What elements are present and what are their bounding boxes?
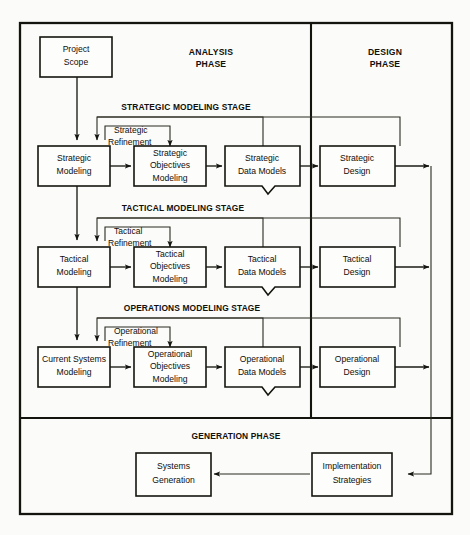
svg-text:ANALYSIS: ANALYSIS (189, 47, 233, 57)
node-strategic-objectives-modeling[interactable]: Strategic Objectives Modeling (134, 146, 206, 186)
svg-text:Design: Design (344, 367, 371, 377)
svg-text:Data Models: Data Models (238, 367, 286, 377)
node-tactical-modeling[interactable]: Tactical Modeling (38, 247, 110, 287)
svg-text:Data Models: Data Models (238, 166, 286, 176)
svg-text:Tactical: Tactical (156, 249, 185, 259)
generation-phase-label: GENERATION PHASE (192, 431, 281, 441)
svg-text:Operational: Operational (114, 326, 158, 336)
svg-text:Project: Project (63, 44, 90, 54)
svg-text:Tactical: Tactical (343, 254, 372, 264)
node-implementation-strategies[interactable]: Implementation Strategies (312, 453, 392, 496)
process-flow-diagram: ANALYSIS PHASE DESIGN PHASE STRATEGIC MO… (0, 0, 470, 535)
svg-text:DESIGN: DESIGN (368, 47, 402, 57)
node-operational-design[interactable]: Operational Design (320, 347, 395, 387)
svg-text:Scope: Scope (64, 57, 89, 67)
svg-text:Modeling: Modeling (57, 166, 92, 176)
svg-text:Tactical: Tactical (248, 254, 277, 264)
label-strategic-refinement: Strategic Refinement (108, 125, 152, 147)
node-operational-objectives-modeling[interactable]: Operational Objectives Modeling (134, 347, 206, 387)
svg-text:Operational: Operational (335, 354, 380, 364)
node-operational-data-models[interactable]: Operational Data Models (225, 347, 300, 395)
svg-text:PHASE: PHASE (196, 59, 227, 69)
stage-label-operations: OPERATIONS MODELING STAGE (124, 303, 261, 313)
svg-text:Objectives: Objectives (150, 361, 190, 371)
svg-text:Tactical: Tactical (60, 254, 89, 264)
svg-text:Systems: Systems (157, 461, 190, 471)
svg-text:Modeling: Modeling (153, 374, 188, 384)
stage-label-tactical: TACTICAL MODELING STAGE (122, 203, 245, 213)
svg-text:Strategic: Strategic (114, 125, 148, 135)
node-strategic-data-models[interactable]: Strategic Data Models (225, 146, 300, 194)
svg-text:PHASE: PHASE (370, 59, 401, 69)
node-tactical-objectives-modeling[interactable]: Tactical Objectives Modeling (134, 247, 206, 287)
svg-text:Modeling: Modeling (57, 367, 92, 377)
node-systems-generation[interactable]: Systems Generation (136, 453, 211, 496)
svg-text:Operational: Operational (148, 349, 193, 359)
phase-label-design: DESIGN PHASE (368, 47, 402, 69)
svg-text:Objectives: Objectives (150, 261, 190, 271)
node-tactical-data-models[interactable]: Tactical Data Models (225, 247, 300, 295)
svg-text:Modeling: Modeling (57, 267, 92, 277)
label-tactical-refinement: Tactical Refinement (108, 226, 152, 248)
svg-text:Strategic: Strategic (57, 153, 92, 163)
svg-text:Tactical: Tactical (114, 226, 142, 236)
svg-text:Design: Design (344, 166, 371, 176)
node-tactical-design[interactable]: Tactical Design (320, 247, 395, 287)
node-project-scope[interactable]: Project Scope (40, 37, 112, 77)
svg-text:Implementation: Implementation (323, 461, 382, 471)
node-strategic-modeling[interactable]: Strategic Modeling (38, 146, 110, 186)
label-operational-refinement: Operational Refinement (108, 326, 158, 348)
edge-design-bus-to-implementation (408, 166, 431, 474)
svg-text:Current Systems: Current Systems (42, 354, 106, 364)
phase-label-analysis: ANALYSIS PHASE (189, 47, 233, 69)
svg-text:Design: Design (344, 267, 371, 277)
svg-text:Generation: Generation (152, 475, 195, 485)
diagram-canvas: ANALYSIS PHASE DESIGN PHASE STRATEGIC MO… (0, 0, 470, 535)
svg-text:Strategies: Strategies (333, 475, 372, 485)
node-strategic-design[interactable]: Strategic Design (320, 146, 395, 186)
node-current-systems-modeling[interactable]: Current Systems Modeling (38, 347, 110, 387)
svg-text:Strategic: Strategic (153, 148, 188, 158)
svg-text:Modeling: Modeling (153, 274, 188, 284)
svg-text:Data Models: Data Models (238, 267, 286, 277)
stage-label-strategic: STRATEGIC MODELING STAGE (121, 102, 251, 112)
svg-text:Objectives: Objectives (150, 160, 190, 170)
svg-text:Strategic: Strategic (340, 153, 375, 163)
svg-text:Modeling: Modeling (153, 173, 188, 183)
svg-text:Strategic: Strategic (245, 153, 280, 163)
svg-text:Operational: Operational (240, 354, 285, 364)
